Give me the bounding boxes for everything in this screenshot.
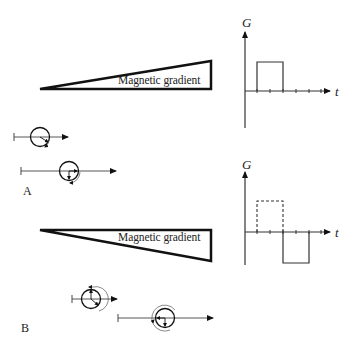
- panel-label-a: A: [23, 184, 32, 199]
- x-axis-label-a: t: [335, 84, 339, 100]
- spin-b-1: [72, 287, 117, 311]
- gradient-pulse-positive: [257, 62, 283, 91]
- figure-canvas: [0, 0, 357, 360]
- panel-label-b: B: [21, 321, 29, 336]
- y-axis-label-b: G: [242, 157, 251, 173]
- spin-a-1: [14, 128, 68, 148]
- x-axis-label-b: t: [335, 225, 339, 241]
- gradient-label-b: Magnetic gradient: [118, 231, 200, 243]
- gradient-pulse-dashed: [257, 201, 283, 232]
- gradient-label-a: Magnetic gradient: [118, 74, 200, 86]
- gradient-graph-b: [245, 172, 330, 265]
- gradient-pulse-negative: [283, 232, 309, 263]
- spin-a-2: [21, 162, 116, 184]
- gradient-graph-a: [245, 32, 330, 128]
- y-axis-label-a: G: [242, 15, 251, 31]
- spin-b-2: [118, 305, 213, 331]
- panel-a: [14, 32, 330, 183]
- panel-b: [40, 172, 330, 331]
